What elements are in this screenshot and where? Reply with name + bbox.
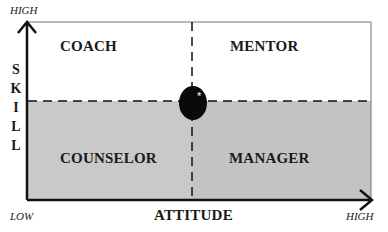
x-axis-high-label: HIGH <box>346 210 374 222</box>
y-axis-label: S K I L L <box>6 60 26 155</box>
quadrant-canvas: * <box>0 0 388 232</box>
x-axis-label: ATTITUDE <box>154 207 233 224</box>
y-axis-high-label: HIGH <box>10 4 38 16</box>
asterisk-icon: * <box>197 90 202 102</box>
x-axis-low-label: LOW <box>10 210 33 222</box>
skill-letter: S <box>6 60 26 79</box>
quadrant-coach: COACH <box>60 38 117 55</box>
skill-letter: L <box>6 136 26 155</box>
skill-letter: I <box>6 98 26 117</box>
quadrant-mentor: MENTOR <box>230 38 298 55</box>
quadrant-counselor: COUNSELOR <box>60 150 157 167</box>
quadrant-manager: MANAGER <box>229 150 310 167</box>
skill-letter: L <box>6 117 26 136</box>
center-marker <box>179 86 207 120</box>
skill-letter: K <box>6 79 26 98</box>
